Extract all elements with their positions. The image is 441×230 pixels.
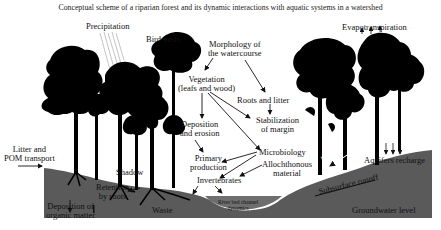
label-stabilization-line2: of margin	[256, 125, 299, 134]
label-microbiology: Microbiology	[259, 148, 306, 157]
label-vegetation: Vegetation (leafs and wood)	[178, 75, 235, 93]
label-waste: Waste	[152, 206, 173, 215]
label-litter-pom: Litter and POM transport	[4, 145, 55, 163]
label-river-bed: River bed channel dynamics	[218, 199, 258, 211]
riparian-scene	[0, 0, 441, 230]
label-deposition-erosion-line2: and erosion	[180, 129, 219, 138]
right-forest-trees	[293, 33, 424, 175]
label-litter-pom-line2: POM transport	[4, 154, 55, 163]
label-primary-production: Primary production	[190, 154, 227, 172]
label-vegetation-line2: (leafs and wood)	[178, 84, 235, 93]
aquifer-recharge-arrows-icon	[386, 143, 400, 154]
label-morphology-line2: the watercourse	[208, 49, 262, 58]
label-primary-production-line2: production	[190, 163, 227, 172]
label-evapotranspiration: Evapotranspiration	[342, 23, 407, 32]
label-river-bed-line2: dynamics	[218, 205, 258, 211]
label-stabilization: Stabilization of margin	[256, 116, 299, 134]
label-deposition-erosion: Deposition and erosion	[180, 120, 219, 138]
label-allochthonous: Allochthonous material	[262, 160, 312, 178]
label-retention-roots: Retention by roots	[96, 183, 129, 201]
label-invertebrates: Invertebrates	[197, 176, 241, 185]
label-morphology: Morphology of the watercourse	[208, 40, 262, 58]
label-groundwater-level: Groundwater level	[352, 206, 416, 215]
label-deposition-organic-line2: organic matter	[46, 211, 95, 220]
label-bird-nests: Bird nests	[146, 35, 180, 44]
label-aquifers-recharge: Aquifers recharge	[364, 156, 425, 165]
label-retention-line2: by roots	[96, 192, 129, 201]
label-shadow: Shadow	[116, 168, 143, 177]
label-precipitation: Precipitation	[86, 22, 129, 31]
label-deposition-organic: Deposition of organic matter	[46, 202, 95, 220]
label-allochthonous-line2: material	[262, 169, 312, 178]
label-roots-litter: Roots and litter	[237, 96, 289, 105]
